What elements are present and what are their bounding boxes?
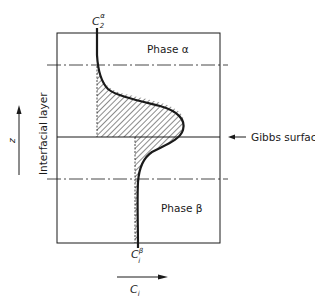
- phase-beta-label: Phase β: [161, 202, 202, 214]
- phase-alpha-label: Phase α: [147, 43, 189, 55]
- excess-area-lower: [135, 137, 178, 243]
- x-axis-arrow-icon: [158, 275, 168, 280]
- gibbs-surface-label: Gibbs surface: [251, 131, 315, 143]
- interfacial-layer-label: Interfacial layer: [37, 92, 49, 175]
- top-concentration-label: C2α: [92, 12, 105, 30]
- z-axis-label: z: [7, 138, 17, 144]
- bottom-concentration-label: Cβi: [131, 247, 144, 265]
- x-axis-label: Ci: [130, 283, 140, 298]
- z-axis-arrow-icon: [17, 105, 22, 114]
- gibbs-arrow-icon: [228, 135, 235, 140]
- gibbs-diagram: Gibbs surface Phase α Phase β C2α Cβi z …: [0, 0, 315, 302]
